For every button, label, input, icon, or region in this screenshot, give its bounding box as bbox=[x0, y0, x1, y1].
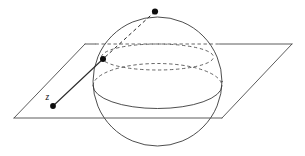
plane-point-z bbox=[50, 103, 56, 109]
equator-front-arc bbox=[93, 86, 222, 109]
sphere-outline bbox=[93, 17, 222, 146]
diagram-canvas: z bbox=[0, 0, 305, 156]
riemann-sphere-figure: z bbox=[0, 0, 305, 156]
plane-edge-right bbox=[222, 44, 292, 118]
point-z-label: z bbox=[45, 92, 50, 102]
equator-back-arc bbox=[93, 64, 222, 87]
projection-ray-hidden-segment bbox=[103, 12, 155, 60]
plane-sphere-intersection-front bbox=[102, 44, 214, 57]
north-pole-point bbox=[152, 8, 158, 14]
sphere-surface-point bbox=[100, 56, 106, 62]
plane-edge-left bbox=[14, 44, 85, 118]
